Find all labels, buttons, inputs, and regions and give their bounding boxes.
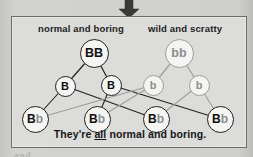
allele-symbol: b bbox=[98, 113, 105, 125]
allele-symbol: B bbox=[61, 81, 69, 92]
parent-genotype-bb: bb bbox=[165, 39, 194, 68]
allele-symbol: B bbox=[27, 113, 36, 125]
allele-symbol: b bbox=[221, 113, 228, 125]
allele-symbol: B bbox=[107, 80, 115, 91]
allele-symbol: b bbox=[36, 113, 43, 125]
allele-symbol: B bbox=[212, 113, 221, 125]
allele-symbol: b bbox=[150, 80, 157, 91]
parent-genotype-BB: BB bbox=[80, 39, 109, 68]
right-parent-label: wild and scratty bbox=[148, 23, 222, 34]
allele-symbol: B bbox=[148, 113, 157, 125]
gamete-allele-B: B bbox=[55, 76, 76, 97]
left-parent-label: normal and boring bbox=[38, 23, 124, 34]
gamete-allele-b: b bbox=[189, 75, 210, 96]
gamete-allele-b: b bbox=[143, 75, 164, 96]
background-bleed-text-c: and bbox=[14, 150, 32, 157]
allele-symbol: b bbox=[196, 80, 203, 91]
conclusion-prefix: They're bbox=[54, 128, 95, 140]
allele-symbol: B bbox=[89, 113, 98, 125]
gamete-allele-B: B bbox=[101, 75, 122, 96]
conclusion-caption: They're all normal and boring. bbox=[12, 128, 247, 140]
allele-symbol: b bbox=[171, 47, 179, 60]
diagram-panel: normal and boring wild and scratty BBbbB… bbox=[11, 16, 247, 148]
conclusion-emphasis: all bbox=[94, 128, 106, 140]
allele-symbol: b bbox=[179, 47, 187, 60]
allele-symbol: b bbox=[157, 113, 164, 125]
allele-symbol: B bbox=[94, 47, 103, 60]
allele-symbol: B bbox=[85, 47, 94, 60]
conclusion-suffix: normal and boring. bbox=[106, 128, 206, 140]
scanned-page: AT IN lotted and normal and boring wild … bbox=[0, 0, 253, 157]
